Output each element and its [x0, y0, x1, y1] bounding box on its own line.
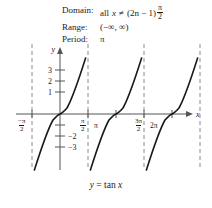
asymptote-group	[32, 44, 200, 170]
x-tick-label-pi-over-2: π 2	[79, 118, 87, 133]
y-tick-label-1: 1	[48, 88, 52, 97]
function-properties: Domain: all x ≠ (2n − 1) π 2 Range: (−∞,…	[62, 4, 164, 45]
pi-over-2-numerator: π	[80, 118, 86, 125]
domain-fraction-denominator: 2	[157, 12, 163, 21]
pi-over-2-denominator: 2	[80, 125, 86, 133]
domain-fraction-numerator: π	[157, 4, 163, 12]
y-tick-labels-negative: −2 −3	[68, 132, 77, 152]
neg-pi-over-2-fraction: −π 2	[17, 118, 26, 133]
three-pi-over-2-numerator: 3π	[134, 118, 143, 125]
caption-x: x	[118, 180, 122, 190]
y-tick-label-neg-2: −2	[68, 132, 77, 141]
three-pi-over-2-fraction: 3π 2	[134, 118, 143, 133]
x-axis-label: x	[195, 110, 200, 119]
y-axis	[57, 47, 63, 170]
property-row-range: Range: (−∞, ∞)	[62, 21, 164, 33]
x-tick-label-neg-pi-over-2: −π 2	[16, 118, 27, 133]
pi-over-2-fraction: π 2	[80, 118, 86, 133]
neg-pi-over-2-denominator: 2	[19, 125, 25, 133]
y-tick-labels: 3 2 1	[48, 66, 52, 97]
x-tick-label-pi: π	[94, 122, 98, 130]
caption-equals: =	[96, 180, 101, 190]
caption-y: y	[90, 180, 94, 190]
y-axis-arrowhead	[57, 47, 63, 54]
neg-pi-over-2-numerator: −π	[17, 118, 26, 125]
tangent-plot: 3 2 1 −2 −3 y x −π 2 π 2 π	[0, 42, 212, 172]
x-axis-arrowhead	[186, 111, 193, 117]
range-value: (−∞, ∞)	[100, 21, 128, 33]
plot-svg: 3 2 1 −2 −3 y x	[0, 42, 212, 172]
domain-variable-x: x	[112, 7, 116, 19]
domain-value: all x ≠ (2n − 1) π 2	[100, 4, 164, 21]
domain-label: Domain:	[62, 4, 100, 16]
y-axis-label: y	[50, 45, 55, 54]
domain-all-word: all	[100, 7, 109, 19]
property-row-domain: Domain: all x ≠ (2n − 1) π 2	[62, 4, 164, 21]
x-tick-label-2pi: 2π	[150, 122, 158, 130]
y-tick-label-neg-3: −3	[68, 143, 77, 152]
domain-not-equal-sign: ≠	[119, 7, 124, 19]
domain-expression: (2n − 1)	[127, 7, 156, 19]
x-tick-label-3pi-over-2: 3π 2	[133, 118, 144, 133]
figure-caption: y = tan x	[0, 180, 212, 190]
x-axis	[16, 111, 193, 117]
y-tick-label-3: 3	[48, 66, 52, 75]
range-label: Range:	[62, 21, 100, 33]
tangent-curve-group	[34, 58, 197, 170]
tangent-function-figure: Domain: all x ≠ (2n − 1) π 2 Range: (−∞,…	[0, 0, 212, 208]
caption-function-name: tan	[104, 180, 116, 190]
y-tick-label-2: 2	[48, 77, 52, 86]
domain-fraction-pi-over-2: π 2	[157, 4, 163, 21]
three-pi-over-2-denominator: 2	[136, 125, 142, 133]
